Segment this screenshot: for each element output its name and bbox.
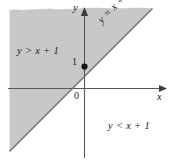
inequality-graph-figure: y > x + 1 y < x + 1 y = x + 1 y x 1 0 (0, 0, 170, 164)
y-axis-label: y (73, 3, 78, 14)
graph-canvas (0, 0, 170, 164)
y-intercept-point (81, 63, 87, 69)
origin-label: 0 (74, 91, 79, 101)
y-intercept-tick-label: 1 (72, 57, 77, 67)
x-axis-label: x (157, 92, 162, 103)
region-label-below-line: y < x + 1 (108, 121, 150, 132)
region-label-above-line: y > x + 1 (17, 46, 59, 57)
